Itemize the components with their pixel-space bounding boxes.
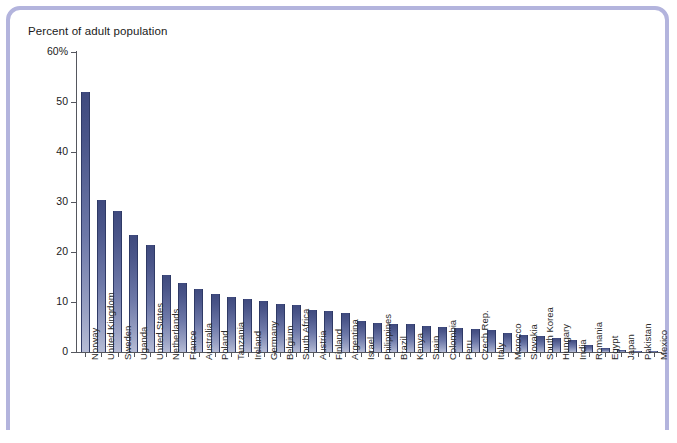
x-axis-tick-label: Hungary [560,324,571,360]
x-tick-mark [459,353,460,357]
x-tick-mark [638,353,639,357]
x-axis-tick-label: Sweden [122,326,133,360]
x-tick-mark [589,353,590,357]
x-axis-tick-label: South Korea [544,307,555,360]
y-axis-tick-label: 30 [0,195,68,207]
y-axis-tick-label: 10 [0,295,68,307]
x-axis-tick-label: Colombia [447,320,458,360]
x-tick-mark [443,353,444,357]
x-axis-tick-label: South Africa [300,309,311,360]
x-tick-mark [654,353,655,357]
x-axis-tick-label: Philippines [382,314,393,360]
y-tick-mark [71,202,77,203]
x-tick-mark [280,353,281,357]
y-tick-mark [71,352,77,353]
frame-bottom-mask [0,430,677,443]
x-tick-mark [118,353,119,357]
x-tick-mark [410,353,411,357]
x-axis-tick-label: Slovakia [528,324,539,360]
x-tick-mark [621,353,622,357]
x-tick-mark [215,353,216,357]
x-axis-tick-label: Italy [495,343,506,360]
x-tick-mark [394,353,395,357]
y-tick-mark [71,302,77,303]
y-axis-tick-label: 50 [0,95,68,107]
bar [81,92,90,352]
y-axis-tick-label: 0 [0,345,68,357]
x-axis-tick-label: Finland [333,329,344,360]
y-tick-mark [71,102,77,103]
x-tick-mark [150,353,151,357]
x-axis-tick-label: Australia [203,323,214,360]
x-tick-mark [540,353,541,357]
y-axis-tick-label: 60% [0,45,68,57]
x-tick-mark [101,353,102,357]
x-tick-mark [524,353,525,357]
x-tick-mark [166,353,167,357]
x-axis-tick-label: Germany [268,321,279,360]
x-tick-mark [231,353,232,357]
x-axis-tick-label: Pakistan [642,324,653,360]
x-axis-tick-label: Tanzania [235,322,246,360]
x-axis-tick-label: Belgium [284,326,295,360]
x-tick-mark [329,353,330,357]
x-tick-mark [296,353,297,357]
x-axis-tick-label: Netherlands [170,309,181,360]
x-axis-tick-label: Brazil [398,336,409,360]
x-axis-tick-label: Mexico [658,330,669,360]
x-axis-tick-label: United Kingdom [105,292,116,360]
x-tick-mark [426,353,427,357]
x-tick-mark [556,353,557,357]
x-axis-tick-label: Japan [625,334,636,360]
x-axis-tick-label: Peru [463,340,474,360]
x-axis-tick-label: Czech Rep. [479,310,490,360]
y-axis-tick-label: 20 [0,245,68,257]
x-tick-mark [475,353,476,357]
x-axis-tick-label: Poland [219,330,230,360]
chart-title: Percent of adult population [28,25,168,37]
x-axis-tick-label: Austria [317,330,328,360]
x-tick-mark [605,353,606,357]
x-tick-mark [134,353,135,357]
x-axis-tick-label: Norway [89,328,100,360]
y-axis-tick-label: 40 [0,145,68,157]
x-axis-tick-label: Egypt [609,336,620,360]
y-tick-mark [71,52,77,53]
x-tick-mark [491,353,492,357]
x-tick-mark [361,353,362,357]
x-tick-mark [264,353,265,357]
x-axis-tick-label: France [187,330,198,360]
x-tick-mark [85,353,86,357]
y-tick-mark [71,152,77,153]
x-tick-mark [248,353,249,357]
x-axis-tick-label: Spain [430,336,441,360]
x-tick-mark [345,353,346,357]
x-tick-mark [573,353,574,357]
x-axis-tick-label: Ireland [252,331,263,360]
x-axis-tick-label: Argentina [349,319,360,360]
x-axis-tick-label: United States [154,303,165,360]
x-axis-tick-label: Israel [365,337,376,360]
x-tick-mark [378,353,379,357]
x-axis-tick-label: Romania [593,322,604,360]
x-tick-mark [199,353,200,357]
y-tick-mark [71,252,77,253]
x-tick-mark [313,353,314,357]
x-tick-mark [508,353,509,357]
x-tick-mark [183,353,184,357]
x-axis-tick-label: Morocco [512,324,523,360]
bar-chart: Percent of adult population 010203040506… [0,0,677,443]
x-axis-tick-label: Uganda [138,327,149,360]
x-axis-tick-label: India [577,339,588,360]
x-axis-tick-label: Kenya [414,333,425,360]
